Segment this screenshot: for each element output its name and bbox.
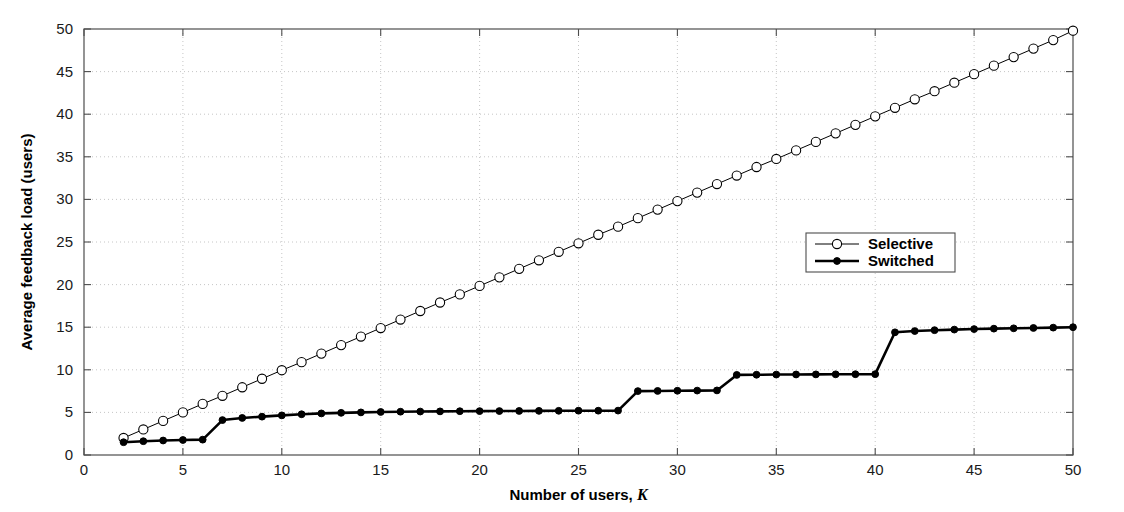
data-point-marker: [259, 413, 266, 420]
data-point-marker: [654, 388, 661, 395]
data-point-marker: [951, 326, 958, 333]
data-point-marker: [198, 399, 207, 408]
data-point-marker: [297, 358, 306, 367]
data-point-marker: [674, 387, 681, 394]
data-point-marker: [831, 129, 840, 138]
data-point-marker: [257, 374, 266, 383]
data-point-marker: [892, 329, 899, 336]
data-point-marker: [832, 371, 839, 378]
x-tick-label: 5: [179, 461, 187, 478]
legend-label: Selective: [868, 235, 933, 252]
data-point-marker: [536, 407, 543, 414]
data-point-marker: [693, 188, 702, 197]
data-point-marker: [1030, 325, 1037, 332]
data-point-marker: [298, 411, 305, 418]
data-point-marker: [318, 410, 325, 417]
data-point-marker: [930, 87, 939, 96]
data-point-marker: [417, 408, 424, 415]
data-point-marker: [633, 214, 642, 223]
data-point-marker: [931, 327, 938, 334]
data-point-marker: [218, 391, 227, 400]
y-tick-label: 25: [56, 233, 73, 250]
data-point-marker: [396, 315, 405, 324]
data-point-marker: [139, 425, 148, 434]
chart-figure: 0510152025303540455005101520253035404550…: [0, 0, 1124, 512]
data-point-marker: [733, 372, 740, 379]
data-point-marker: [219, 417, 226, 424]
x-tick-label: 15: [372, 461, 389, 478]
data-point-marker: [872, 371, 879, 378]
data-point-marker: [437, 408, 444, 415]
data-point-marker: [851, 120, 860, 129]
data-point-marker: [574, 239, 583, 248]
data-point-marker: [435, 298, 444, 307]
data-point-marker: [277, 366, 286, 375]
data-point-marker: [595, 407, 602, 414]
data-point-marker: [534, 256, 543, 265]
data-point-marker: [456, 408, 463, 415]
y-tick-label: 15: [56, 318, 73, 335]
data-point-marker: [653, 205, 662, 214]
y-tick-label: 10: [56, 361, 73, 378]
y-tick-label: 0: [65, 446, 73, 463]
data-point-marker: [239, 415, 246, 422]
data-point-marker: [594, 230, 603, 239]
data-point-marker: [613, 222, 622, 231]
data-point-marker: [712, 179, 721, 188]
x-tick-label: 30: [669, 461, 686, 478]
data-point-marker: [140, 438, 147, 445]
data-point-marker: [377, 409, 384, 416]
data-point-marker: [476, 408, 483, 415]
chart-legend[interactable]: SelectiveSwitched: [806, 233, 955, 272]
data-point-marker: [732, 171, 741, 180]
data-point-marker: [397, 408, 404, 415]
data-point-marker: [515, 264, 524, 273]
data-point-marker: [1050, 324, 1057, 331]
chart-svg: 0510152025303540455005101520253035404550…: [0, 0, 1124, 512]
data-point-marker: [793, 371, 800, 378]
data-point-marker: [694, 387, 701, 394]
data-point-marker: [555, 407, 562, 414]
data-point-marker: [496, 408, 503, 415]
x-axis-title-symbol: K: [636, 486, 649, 503]
data-point-marker: [871, 112, 880, 121]
legend-marker-open-circle: [832, 239, 841, 248]
data-point-marker: [752, 162, 761, 171]
data-point-marker: [772, 154, 781, 163]
legend-marker-filled-circle: [834, 258, 841, 265]
data-point-marker: [911, 328, 918, 335]
data-point-marker: [1010, 325, 1017, 332]
legend-label: Switched: [868, 252, 934, 269]
data-point-marker: [990, 325, 997, 332]
data-point-marker: [199, 436, 206, 443]
data-point-marker: [575, 407, 582, 414]
x-axis-title-main: Number of users,: [509, 486, 637, 503]
data-point-marker: [852, 371, 859, 378]
data-point-marker: [495, 273, 504, 282]
data-point-marker: [791, 146, 800, 155]
x-tick-label: 25: [570, 461, 587, 478]
data-point-marker: [634, 388, 641, 395]
x-tick-label: 10: [273, 461, 290, 478]
x-tick-label: 45: [966, 461, 983, 478]
data-point-marker: [811, 137, 820, 146]
data-point-marker: [971, 326, 978, 333]
data-point-marker: [970, 70, 979, 79]
data-point-marker: [989, 61, 998, 70]
data-point-marker: [773, 371, 780, 378]
x-axis-title: Number of users, K: [509, 486, 649, 503]
data-point-marker: [753, 371, 760, 378]
data-point-marker: [159, 416, 168, 425]
data-point-marker: [516, 408, 523, 415]
data-point-marker: [1009, 53, 1018, 62]
data-point-marker: [178, 408, 187, 417]
data-point-marker: [160, 437, 167, 444]
y-tick-label: 35: [56, 148, 73, 165]
data-point-marker: [1070, 324, 1077, 331]
y-axis-title: Average feedback load (users): [18, 133, 35, 350]
data-point-marker: [714, 387, 721, 394]
data-point-marker: [238, 383, 247, 392]
x-tick-label: 40: [867, 461, 884, 478]
data-point-marker: [554, 247, 563, 256]
data-point-marker: [180, 437, 187, 444]
